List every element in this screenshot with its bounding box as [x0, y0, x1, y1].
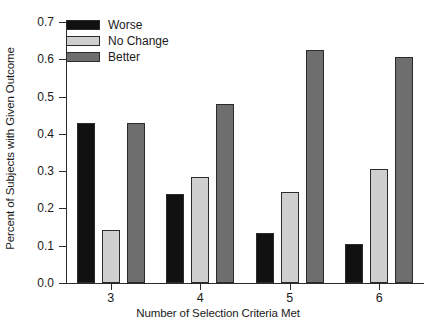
bar-no-change-6 — [370, 169, 388, 283]
bar-better-3 — [127, 123, 145, 283]
x-tick-label: 4 — [180, 292, 220, 305]
x-axis-title: Number of Selection Criteria Met — [0, 307, 436, 319]
y-tick-label: 0.5 — [22, 91, 54, 103]
legend-swatch-icon — [66, 52, 100, 62]
y-tick-label: 0.6 — [22, 53, 54, 65]
legend-label: No Change — [108, 35, 169, 47]
x-tick-label: 5 — [270, 292, 310, 305]
bar-chart: Percent of Subjects with Given Outcome 0… — [0, 0, 436, 328]
y-tick-label: 0.0 — [22, 277, 54, 289]
bar-better-6 — [395, 57, 413, 283]
y-tick-label: 0.3 — [22, 165, 54, 177]
bar-no-change-3 — [102, 230, 120, 283]
x-tick-label: 3 — [91, 292, 131, 305]
x-tick — [111, 284, 112, 290]
legend-label: Worse — [108, 19, 142, 31]
chart-legend: WorseNo ChangeBetter — [66, 18, 169, 64]
legend-item-better: Better — [66, 50, 169, 64]
x-tick — [200, 284, 201, 290]
y-tick — [59, 171, 66, 172]
legend-swatch-icon — [66, 36, 100, 46]
y-tick — [59, 134, 66, 135]
y-tick — [59, 246, 66, 247]
bar-worse-5 — [256, 233, 274, 283]
y-tick — [59, 59, 66, 60]
y-tick — [59, 22, 66, 23]
bar-better-4 — [216, 104, 234, 283]
y-tick — [59, 208, 66, 209]
bar-better-5 — [306, 50, 324, 283]
bar-worse-3 — [77, 123, 95, 283]
x-tick — [379, 284, 380, 290]
x-tick — [290, 284, 291, 290]
x-axis-line — [66, 283, 424, 284]
y-axis-title: Percent of Subjects with Given Outcome — [2, 7, 18, 290]
y-tick-label: 0.2 — [22, 202, 54, 214]
y-tick — [59, 283, 66, 284]
y-tick-label: 0.1 — [22, 240, 54, 252]
legend-item-worse: Worse — [66, 18, 169, 32]
y-tick-label: 0.4 — [22, 128, 54, 140]
bar-worse-6 — [345, 244, 363, 283]
legend-swatch-icon — [66, 20, 100, 30]
legend-item-no-change: No Change — [66, 34, 169, 48]
y-tick-label: 0.7 — [22, 16, 54, 28]
bar-no-change-5 — [281, 192, 299, 283]
y-tick — [59, 97, 66, 98]
bar-no-change-4 — [191, 177, 209, 283]
bar-worse-4 — [166, 194, 184, 283]
x-tick-label: 6 — [359, 292, 399, 305]
legend-label: Better — [108, 51, 140, 63]
